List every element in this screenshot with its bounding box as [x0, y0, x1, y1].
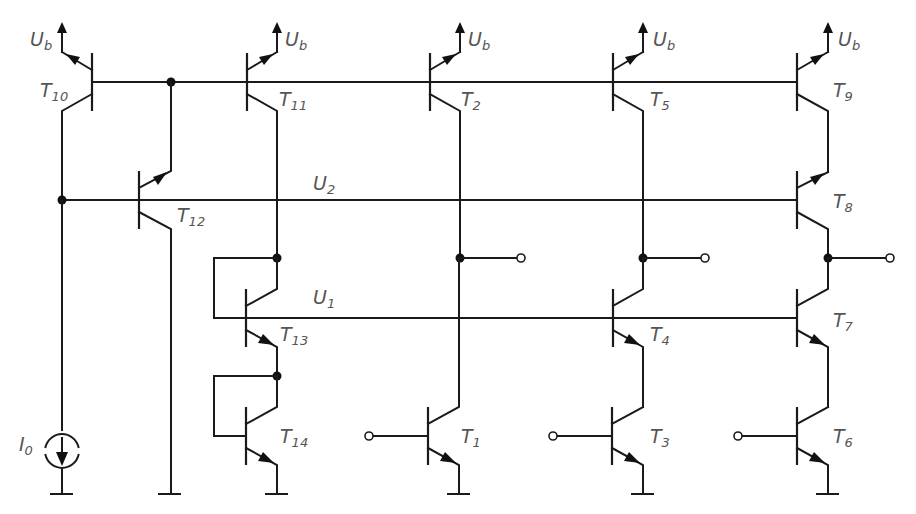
svg-text:Ub: Ub — [30, 28, 52, 53]
input-terminal-t1[interactable] — [365, 432, 428, 440]
svg-text:T8: T8 — [833, 190, 853, 215]
svg-text:Ub: Ub — [653, 28, 675, 53]
transistor-t10: T10 — [40, 52, 92, 200]
label-u2: U2 — [313, 172, 335, 197]
label-u1: U1 — [313, 286, 335, 311]
transistor-t14: T14 — [214, 372, 308, 495]
svg-text:T13: T13 — [280, 323, 308, 348]
transistor-t1: T1 — [428, 258, 481, 494]
transistor-t9: T9 — [797, 52, 853, 172]
svg-text:T4: T4 — [650, 323, 670, 348]
svg-text:T12: T12 — [177, 204, 205, 229]
output-terminal-t2[interactable] — [456, 254, 526, 263]
svg-text:T6: T6 — [833, 425, 853, 450]
svg-text:I0: I0 — [19, 433, 33, 458]
transistor-t6: T6 — [797, 407, 853, 494]
svg-text:Ub: Ub — [838, 28, 860, 53]
svg-text:T7: T7 — [833, 309, 854, 334]
transistor-t8: T8 — [797, 171, 853, 258]
transistor-t4: T4 — [613, 258, 670, 407]
supply-ub-t9: Ub — [823, 22, 860, 53]
supply-ub-t2: Ub — [455, 22, 490, 53]
svg-text:T5: T5 — [650, 88, 670, 113]
circuit-schematic: Ub Ub Ub Ub Ub T10 T11 — [0, 0, 916, 514]
supply-ub-t10: Ub — [30, 22, 67, 53]
transistor-t12: T12 — [139, 82, 205, 494]
transistor-t7: T7 — [797, 258, 854, 407]
supply-ub-t11: Ub — [272, 22, 307, 53]
svg-text:T11: T11 — [279, 88, 307, 113]
svg-text:T1: T1 — [461, 425, 481, 450]
svg-text:T10: T10 — [40, 79, 68, 104]
input-terminal-t6[interactable] — [734, 432, 797, 440]
output-terminal-t5[interactable] — [639, 254, 710, 263]
svg-text:Ub: Ub — [285, 28, 307, 53]
output-terminal-t8[interactable] — [824, 254, 895, 263]
svg-text:T14: T14 — [280, 425, 308, 450]
svg-text:Ub: Ub — [468, 28, 490, 53]
transistor-t3: T3 — [612, 407, 670, 494]
current-source-i0: I0 — [19, 200, 79, 494]
svg-text:T2: T2 — [461, 88, 481, 113]
input-terminal-t3[interactable] — [549, 432, 612, 440]
svg-text:T3: T3 — [650, 425, 670, 450]
svg-text:T9: T9 — [833, 79, 853, 104]
supply-ub-t5: Ub — [638, 22, 675, 53]
